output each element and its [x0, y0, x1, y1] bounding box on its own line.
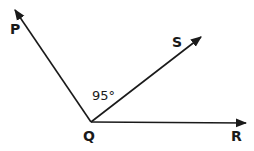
- point-label-p: P: [10, 21, 20, 37]
- ray-qr: [91, 122, 246, 123]
- vertex-label-q: Q: [83, 128, 95, 144]
- point-label-r: R: [231, 128, 242, 144]
- ray-qp: [15, 10, 91, 122]
- point-label-s: S: [172, 34, 182, 50]
- angle-measure-label: 95°: [92, 88, 115, 103]
- angle-diagram: P S R Q 95°: [0, 0, 254, 151]
- ray-qs: [91, 37, 201, 122]
